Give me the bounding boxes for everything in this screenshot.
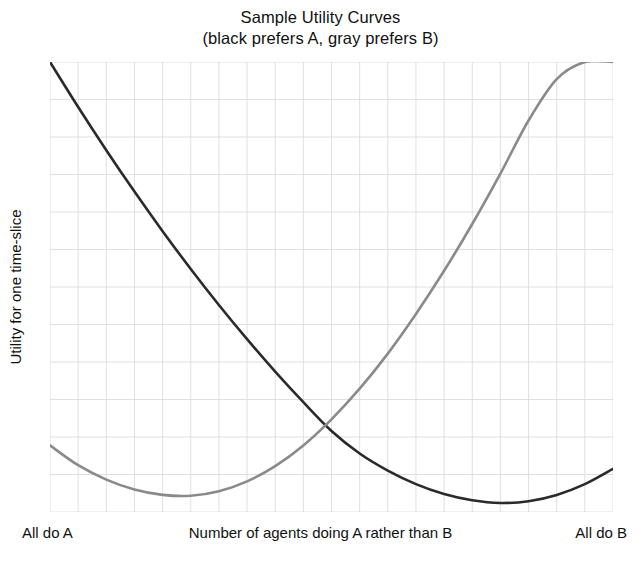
y-axis-label-container: Utility for one time-slice (0, 62, 30, 512)
chart-title: Sample Utility Curves (0, 7, 641, 28)
x-axis-label: Number of agents doing A rather than B (0, 524, 641, 541)
plot-area (50, 62, 613, 512)
y-axis-label: Utility for one time-slice (7, 209, 24, 364)
plot-canvas (50, 62, 613, 512)
x-axis-label-container: All do A Number of agents doing A rather… (0, 524, 641, 548)
grid-lines (50, 62, 613, 512)
chart-subtitle: (black prefers A, gray prefers B) (0, 28, 641, 49)
chart-title-block: Sample Utility Curves (black prefers A, … (0, 7, 641, 49)
chart-figure: Sample Utility Curves (black prefers A, … (0, 0, 641, 576)
x-axis-label-right: All do B (575, 524, 627, 541)
